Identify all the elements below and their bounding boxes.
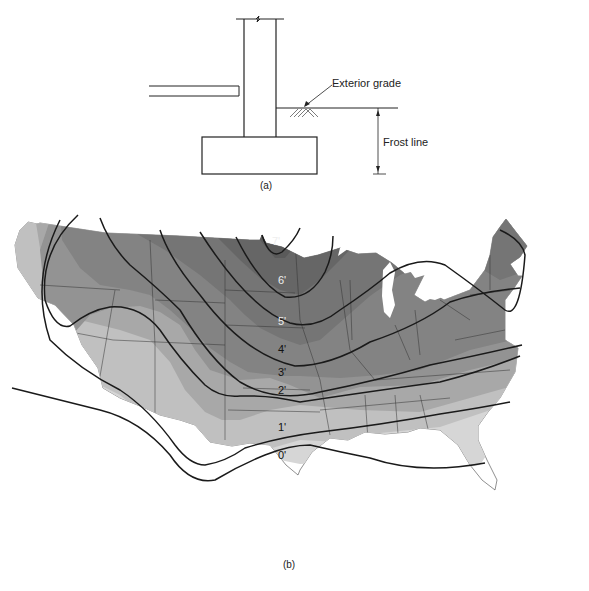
contour-label-5: 5' xyxy=(278,315,286,327)
zone-7ft xyxy=(0,0,589,258)
contour-label-7: 7' xyxy=(272,235,280,247)
contour-label-3: 3' xyxy=(278,366,286,378)
contour-label-4: 4' xyxy=(278,343,286,355)
footing-section-diagram xyxy=(149,16,398,174)
us-frost-depth-map xyxy=(0,0,589,490)
exterior-grade-label: Exterior grade xyxy=(332,77,401,89)
contour-label-2: 2' xyxy=(278,384,286,396)
contour-label-0: 0' xyxy=(278,449,286,461)
contour-label-1: 1' xyxy=(278,421,286,433)
frost-depth-figure: Exterior grade Frost line (a) xyxy=(0,0,589,591)
frost-line-label: Frost line xyxy=(383,136,428,148)
soil-hatch-icon xyxy=(290,109,318,117)
contour-label-6: 6' xyxy=(278,274,286,286)
figure-b-caption: (b) xyxy=(283,559,295,570)
figure-a-caption: (a) xyxy=(260,180,272,191)
